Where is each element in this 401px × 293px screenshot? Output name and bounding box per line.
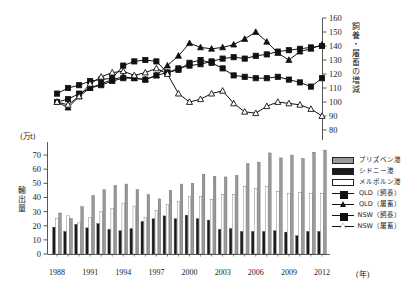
legend-label: NSW（屠畜） xyxy=(358,223,401,230)
bar-group xyxy=(174,184,183,254)
line-series-triangle-open xyxy=(54,65,325,118)
bar-group xyxy=(119,184,128,254)
legend-label: ブリズベン港 xyxy=(359,157,401,164)
bar-group xyxy=(207,176,216,254)
bar-group xyxy=(108,185,117,254)
bar-group xyxy=(307,152,316,254)
bar-group xyxy=(218,177,227,254)
bar-group xyxy=(163,190,172,254)
legend-item[interactable]: シドニー港 xyxy=(332,166,401,177)
x-axis-tick-label: 1997 xyxy=(142,268,170,277)
line-chart-panel: 8090100110120130140150160 xyxy=(0,0,401,146)
bar-group xyxy=(251,162,260,254)
x-axis-tick-label: 2012 xyxy=(308,268,336,277)
svg-text:30: 30 xyxy=(33,207,42,217)
legend-item[interactable]: NSW（屠畜） xyxy=(332,221,401,232)
x-axis-tick-label: 2000 xyxy=(176,268,204,277)
bar-group xyxy=(185,183,194,254)
svg-text:0: 0 xyxy=(37,249,41,259)
bar-group xyxy=(318,150,327,254)
line-series-square-open xyxy=(54,57,324,96)
legend: ブリズベン港シドニー港メルボルン港QLD（飼養）QLD（屠畜）NSW（飼養）NS… xyxy=(332,155,401,232)
bar-group xyxy=(86,195,95,254)
bar-group xyxy=(285,155,294,254)
bar-group xyxy=(262,153,271,254)
x-axis-tick-label: 1991 xyxy=(76,268,104,277)
chart-figure: 8090100110120130140150160 飼養・屠畜の増減 (万t) … xyxy=(0,0,401,293)
svg-text:140: 140 xyxy=(329,41,342,51)
line-chart-svg: 8090100110120130140150160 xyxy=(0,0,401,146)
bar-group xyxy=(130,190,139,254)
legend-line-marker-icon xyxy=(332,211,353,220)
bar-group xyxy=(141,195,150,254)
svg-text:150: 150 xyxy=(329,27,342,37)
legend-line-marker-icon xyxy=(332,222,353,231)
x-axis-tick-label: 1988 xyxy=(43,268,71,277)
line-series-triangle-filled xyxy=(54,29,325,110)
legend-swatch-icon xyxy=(332,168,354,175)
right-axis-title: 飼養・屠畜の増減 xyxy=(350,22,358,137)
bar-group xyxy=(273,158,282,254)
legend-item[interactable]: メルボルン港 xyxy=(332,177,401,188)
bar-group xyxy=(296,159,305,254)
bar-group xyxy=(64,216,73,254)
legend-item[interactable]: QLD（飼養） xyxy=(332,188,401,199)
bar-group xyxy=(53,213,62,254)
legend-swatch-icon xyxy=(332,179,354,186)
legend-label: QLD（屠畜） xyxy=(359,201,401,208)
bar-group xyxy=(196,174,205,254)
svg-text:20: 20 xyxy=(33,221,42,231)
x-axis-tick-label: 2006 xyxy=(242,268,270,277)
legend-label: メルボルン港 xyxy=(359,179,401,186)
bar-group xyxy=(240,164,249,254)
legend-label: NSW（飼養） xyxy=(358,212,401,219)
x-axis-tick-label: 2003 xyxy=(209,268,237,277)
legend-item[interactable]: QLD（屠畜） xyxy=(332,199,401,210)
svg-text:110: 110 xyxy=(329,83,341,93)
bar-group xyxy=(97,190,106,254)
svg-text:130: 130 xyxy=(329,55,342,65)
legend-label: シドニー港 xyxy=(359,168,394,175)
svg-text:80: 80 xyxy=(329,125,338,135)
legend-label: QLD（飼養） xyxy=(359,190,401,197)
x-axis-tick-label: 1994 xyxy=(109,268,137,277)
left-axis-title: 輸出量 xyxy=(16,186,24,213)
svg-text:160: 160 xyxy=(329,13,342,23)
svg-text:90: 90 xyxy=(329,111,338,121)
bar-group xyxy=(75,207,84,254)
svg-text:10: 10 xyxy=(33,235,42,245)
legend-item[interactable]: ブリズベン港 xyxy=(332,155,401,166)
svg-text:100: 100 xyxy=(329,97,342,107)
svg-text:50: 50 xyxy=(33,178,42,188)
legend-item[interactable]: NSW（飼養） xyxy=(332,210,401,221)
x-axis-unit-label: (年) xyxy=(356,268,369,279)
legend-line-marker-icon xyxy=(332,200,354,209)
svg-text:120: 120 xyxy=(329,69,342,79)
bar-group xyxy=(152,199,161,254)
line-series-square-filled xyxy=(54,43,324,104)
x-axis-tick-label: 2009 xyxy=(275,268,303,277)
legend-line-marker-icon xyxy=(332,189,354,198)
bar-group xyxy=(229,176,238,254)
x-axis-labels: 198819911994199720002003200620092012 xyxy=(0,268,401,282)
legend-swatch-icon xyxy=(332,157,354,164)
svg-text:70: 70 xyxy=(33,150,42,160)
svg-text:60: 60 xyxy=(33,164,42,174)
svg-text:40: 40 xyxy=(33,192,42,202)
